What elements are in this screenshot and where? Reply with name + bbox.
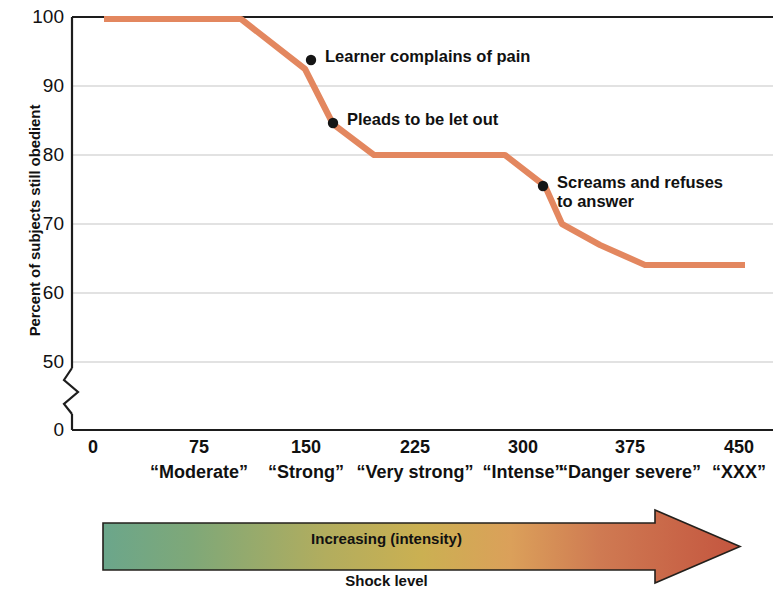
annotation-screams-line2: to answer: [557, 192, 634, 210]
x-tick-450-category: “XXX”: [659, 462, 773, 482]
plot-area: [0, 0, 773, 450]
annotation-learner-complains: Learner complains of pain: [325, 47, 530, 66]
annotation-screams-refuses: Screams and refusesto answer: [557, 173, 723, 212]
annotation-dot-3: [538, 181, 548, 191]
annotation-pleads-let-out: Pleads to be let out: [347, 110, 498, 129]
axis-break-symbol: [64, 368, 78, 414]
intensity-arrow-label: Increasing (intensity): [0, 530, 773, 547]
annotation-screams-line1: Screams and refuses: [557, 173, 723, 191]
x-tick-450-number: 450: [659, 437, 773, 457]
chart-figure: Percent of subjects still obedient 100 9…: [0, 0, 773, 603]
annotation-dot-2: [328, 118, 338, 128]
x-tick-450: 450 “XXX”: [659, 437, 773, 482]
x-axis-caption: Shock level: [0, 572, 773, 589]
annotation-dot-1: [306, 55, 316, 65]
